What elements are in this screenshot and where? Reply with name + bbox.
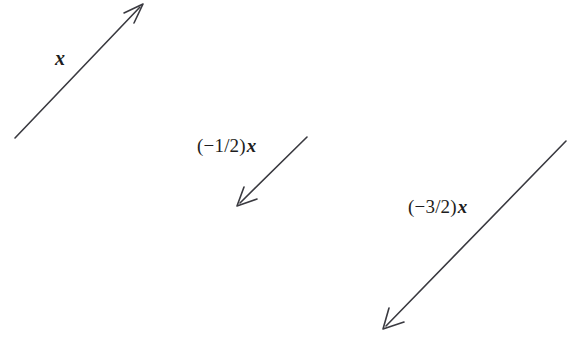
vector-x-shaft [15,7,140,138]
vector-label-x: x [54,48,65,68]
vector-label-neg-half-x: (−1/2)x [197,136,257,155]
vector-diagram-canvas: x (−1/2)x (−3/2)x [0,0,584,341]
vector-arrows-svg [0,0,584,341]
vector-label-neg-three-halves-x: (−3/2)x [408,197,468,216]
vector-neg-three-halves-x-shaft [386,141,566,326]
vector-arrow-x [15,4,143,138]
vector-arrow-neg-three-halves-x [383,141,566,329]
